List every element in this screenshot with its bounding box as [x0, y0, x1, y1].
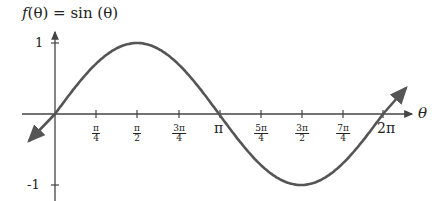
x-tick-label-pi: π [214, 120, 223, 136]
x-tick-label-3pi-4: 3π4 [172, 124, 186, 143]
x-tick-label-5pi-4: 5π4 [254, 124, 268, 143]
sine-chart [0, 0, 446, 201]
y-tick-label-1: 1 [35, 35, 43, 50]
x-tick-label-pi-2: π2 [133, 124, 141, 143]
chart-title: f(θ) = sin (θ) [22, 4, 118, 22]
y-tick-label-minus1: -1 [27, 177, 40, 192]
x-tick-label-7pi-4: 7π4 [336, 124, 350, 143]
x-tick-label-pi-4: π4 [92, 124, 100, 143]
curve-arrow-left [29, 114, 55, 141]
curve-arrow-right [383, 88, 406, 114]
x-tick-label-3pi-2: 3π2 [295, 124, 309, 143]
x-tick-label-2pi: 2π [377, 120, 395, 136]
x-axis-label: θ [418, 104, 427, 122]
